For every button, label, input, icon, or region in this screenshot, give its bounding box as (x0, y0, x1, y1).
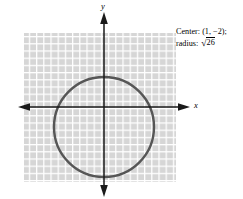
square-root-expression: √26 (200, 38, 215, 50)
y-axis-label: y (101, 1, 105, 11)
circle-annotation: Center: (1, −2); radius: √26 (176, 27, 242, 49)
circle-graph-figure: y x Center: (1, −2); radius: √26 (0, 0, 243, 199)
annotation-radius-line: radius: √26 (176, 38, 242, 50)
x-axis-label: x (194, 100, 198, 110)
annotation-center-line: Center: (1, −2); (176, 27, 242, 38)
annotation-radius-prefix: radius: (176, 39, 200, 48)
radicand-value: 26 (206, 37, 215, 49)
